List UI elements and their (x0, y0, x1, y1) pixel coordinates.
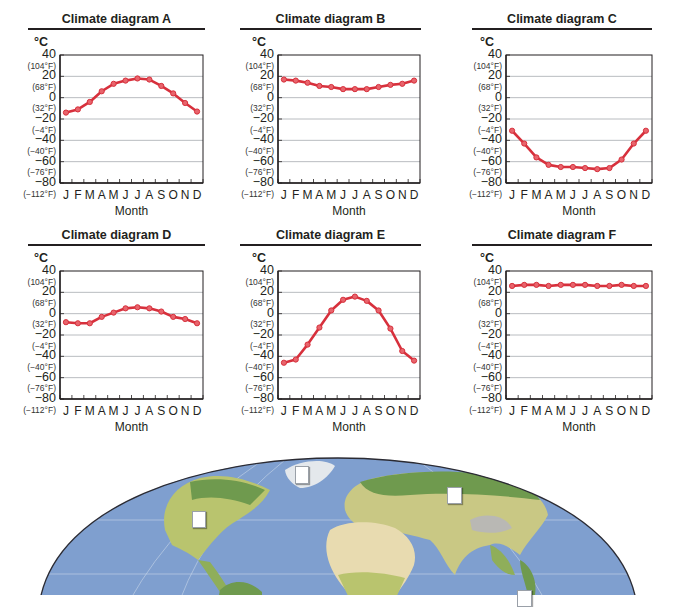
y-tick-label: 0(32°F) (230, 307, 274, 329)
data-point (171, 314, 176, 319)
month-label: S (603, 404, 615, 418)
y-tick-label: −20(−4°F) (12, 112, 56, 134)
month-label: J (567, 404, 579, 418)
temperature-line (512, 285, 646, 286)
month-label: D (408, 404, 420, 418)
map-label-box-southeast-asia[interactable] (517, 590, 532, 607)
y-tick-label: 0(32°F) (12, 307, 56, 329)
data-point (619, 157, 624, 162)
y-tick-celsius: −20 (230, 328, 274, 341)
y-tick-label: −80(−112°F) (230, 176, 274, 198)
month-label: F (290, 188, 302, 202)
y-tick-label: −60(−76°F) (230, 371, 274, 393)
y-tick-label: 40(104°F) (12, 48, 56, 70)
y-tick-celsius: 20 (230, 285, 274, 298)
data-point (183, 100, 188, 105)
y-tick-celsius: −80 (230, 176, 274, 189)
y-tick-label: 20(68°F) (230, 69, 274, 91)
month-label: S (373, 404, 385, 418)
month-label: S (155, 404, 167, 418)
chart-title: Climate diagram C (472, 12, 652, 26)
y-tick-celsius: 40 (230, 48, 274, 61)
y-tick-celsius: 20 (458, 69, 502, 82)
y-tick-label: −80(−112°F) (458, 392, 502, 414)
month-label: M (302, 404, 314, 418)
x-axis-labels: JFMAMJJASOND (60, 188, 203, 202)
y-tick-label: 0(32°F) (458, 91, 502, 113)
month-label: D (640, 404, 652, 418)
world-map-graphic (0, 440, 676, 595)
data-point (75, 321, 80, 326)
month-label: J (60, 188, 72, 202)
month-label: F (518, 404, 530, 418)
data-point (111, 81, 116, 86)
month-label: F (518, 188, 530, 202)
y-tick-celsius: 20 (230, 69, 274, 82)
y-tick-label: 20(68°F) (458, 69, 502, 91)
data-point (159, 309, 164, 314)
month-label: A (143, 404, 155, 418)
temperature-line (284, 80, 414, 90)
data-point (147, 306, 152, 311)
y-tick-celsius: 0 (12, 91, 56, 104)
y-tick-label: −80(−112°F) (12, 392, 56, 414)
y-tick-celsius: 40 (12, 48, 56, 61)
y-tick-celsius: −40 (12, 133, 56, 146)
x-axis-labels: JFMAMJJASOND (506, 404, 652, 418)
month-label: S (373, 188, 385, 202)
data-point (400, 348, 405, 353)
map-label-box-north-america[interactable] (192, 511, 206, 528)
data-point (293, 78, 298, 83)
y-tick-label: 20(68°F) (12, 285, 56, 307)
y-tick-label: −40(−40°F) (230, 349, 274, 371)
data-point (631, 283, 636, 288)
y-tick-celsius: −80 (12, 176, 56, 189)
data-point (63, 320, 68, 325)
data-point (87, 321, 92, 326)
y-tick-celsius: −60 (230, 155, 274, 168)
month-label: F (290, 404, 302, 418)
month-label: M (555, 404, 567, 418)
month-label: J (506, 404, 518, 418)
y-tick-celsius: −60 (458, 371, 502, 384)
plot-area (505, 54, 653, 184)
month-label: M (108, 188, 120, 202)
month-label: N (628, 404, 640, 418)
month-label: J (131, 188, 143, 202)
y-tick-celsius: −40 (458, 349, 502, 362)
data-point (558, 282, 563, 287)
y-tick-celsius: −20 (12, 328, 56, 341)
y-tick-label: −20(−4°F) (458, 328, 502, 350)
y-tick-label: −40(−40°F) (12, 349, 56, 371)
month-label: J (60, 404, 72, 418)
month-label: F (72, 404, 84, 418)
y-tick-celsius: 0 (458, 307, 502, 320)
month-label: M (530, 188, 542, 202)
data-point (364, 87, 369, 92)
chart-title: Climate diagram F (472, 228, 652, 242)
month-label: N (179, 404, 191, 418)
y-tick-label: −40(−40°F) (458, 349, 502, 371)
month-label: J (579, 188, 591, 202)
plot-area (277, 270, 421, 400)
data-point (522, 141, 527, 146)
month-label: M (325, 404, 337, 418)
month-label: J (579, 404, 591, 418)
x-axis-labels: JFMAMJJASOND (278, 404, 420, 418)
y-tick-fahrenheit: (−112°F) (458, 190, 502, 199)
y-tick-label: 0(32°F) (230, 91, 274, 113)
map-label-box-central-asia[interactable] (447, 487, 462, 504)
month-label: S (155, 188, 167, 202)
data-point (123, 78, 128, 83)
x-axis-labels: JFMAMJJASOND (60, 404, 203, 418)
data-point (643, 128, 648, 133)
temperature-line (512, 131, 646, 169)
y-tick-label: 40(104°F) (230, 264, 274, 286)
chart-title: Climate diagram A (28, 12, 205, 26)
data-point (329, 84, 334, 89)
y-tick-celsius: −20 (12, 112, 56, 125)
map-label-box-greenland[interactable] (295, 466, 309, 484)
data-point (293, 357, 298, 362)
data-point (595, 167, 600, 172)
y-tick-celsius: −20 (458, 328, 502, 341)
